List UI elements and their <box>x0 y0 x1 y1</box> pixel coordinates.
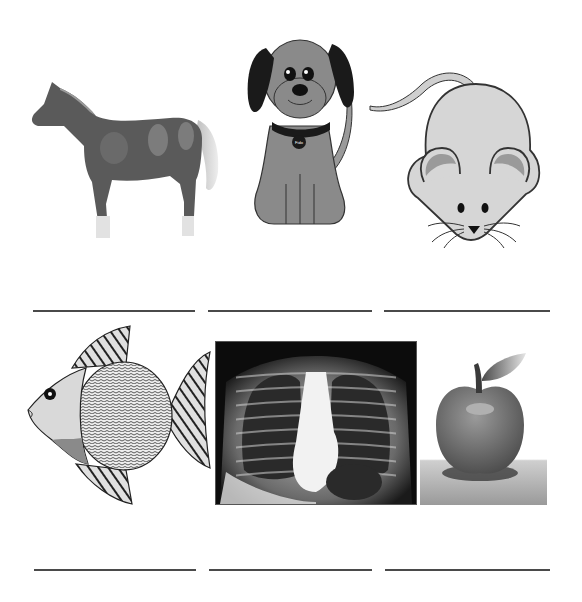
dog-picture: Fido <box>246 34 358 230</box>
answer-line-dog[interactable] <box>208 310 372 312</box>
answer-line-mouse[interactable] <box>384 310 550 312</box>
answer-line-apple[interactable] <box>385 569 550 571</box>
chest-x-ray-picture <box>215 341 417 505</box>
fish-picture <box>26 324 214 508</box>
dog-tag-text: Fido <box>295 140 304 145</box>
horse-picture <box>30 76 225 244</box>
answer-line-chest-x-ray[interactable] <box>209 569 372 571</box>
answer-line-fish[interactable] <box>34 569 196 571</box>
mouse-picture <box>366 66 552 248</box>
apple-picture <box>420 341 547 505</box>
answer-line-horse[interactable] <box>33 310 195 312</box>
